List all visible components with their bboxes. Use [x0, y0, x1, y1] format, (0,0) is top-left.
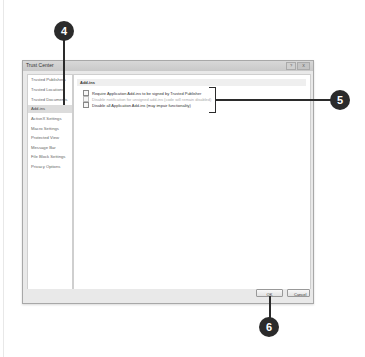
sidebar-item-trusted-publishers[interactable]: Trusted Publishers — [28, 76, 72, 84]
help-button[interactable]: ? — [286, 62, 296, 70]
sidebar-item-file-block-settings[interactable]: File Block Settings — [28, 153, 72, 161]
option-label: Require Application Add-ins to be signed… — [92, 91, 201, 96]
cancel-button[interactable]: Cancel — [287, 289, 310, 297]
callout-5-bracket — [209, 87, 216, 113]
option-label: Disable all Application Add-ins (may imp… — [92, 103, 191, 108]
checkbox[interactable] — [83, 102, 89, 108]
sidebar-item-privacy-options[interactable]: Privacy Options — [28, 163, 72, 171]
sidebar-item-activex-settings[interactable]: ActiveX Settings — [28, 115, 72, 123]
sidebar-item-trusted-locations[interactable]: Trusted Locations — [28, 86, 72, 94]
callout-5-leader — [216, 99, 332, 101]
callout-6-badge: 6 — [259, 317, 279, 337]
sidebar-nav: Trusted Publishers Trusted Locations Tru… — [27, 74, 73, 290]
sidebar-item-message-bar[interactable]: Message Bar — [28, 144, 72, 152]
sidebar-item-add-ins[interactable]: Add-ins — [28, 105, 72, 113]
option-disable-all-addins[interactable]: Disable all Application Add-ins (may imp… — [83, 102, 191, 108]
sidebar-item-protected-view[interactable]: Protected View — [28, 134, 72, 142]
sidebar-item-trusted-documents[interactable]: Trusted Documents — [28, 96, 72, 104]
title-bar: Trust Center ? X — [23, 61, 313, 71]
trust-center-dialog: Trust Center ? X Trusted Publishers Trus… — [22, 60, 314, 304]
page-margin-rule — [3, 0, 4, 357]
callout-4-badge: 4 — [54, 21, 74, 41]
option-label: Disable notification for unsigned add-in… — [92, 97, 211, 102]
dialog-title: Trust Center — [26, 62, 54, 68]
callout-5-badge: 5 — [330, 90, 350, 110]
close-button[interactable]: X — [297, 62, 310, 70]
add-ins-panel: Add-ins Require Application Add-ins to b… — [73, 74, 311, 290]
callout-4-leader — [63, 38, 65, 105]
section-header: Add-ins — [77, 79, 306, 86]
sidebar-item-macro-settings[interactable]: Macro Settings — [28, 125, 72, 133]
window-controls: ? X — [286, 62, 310, 70]
